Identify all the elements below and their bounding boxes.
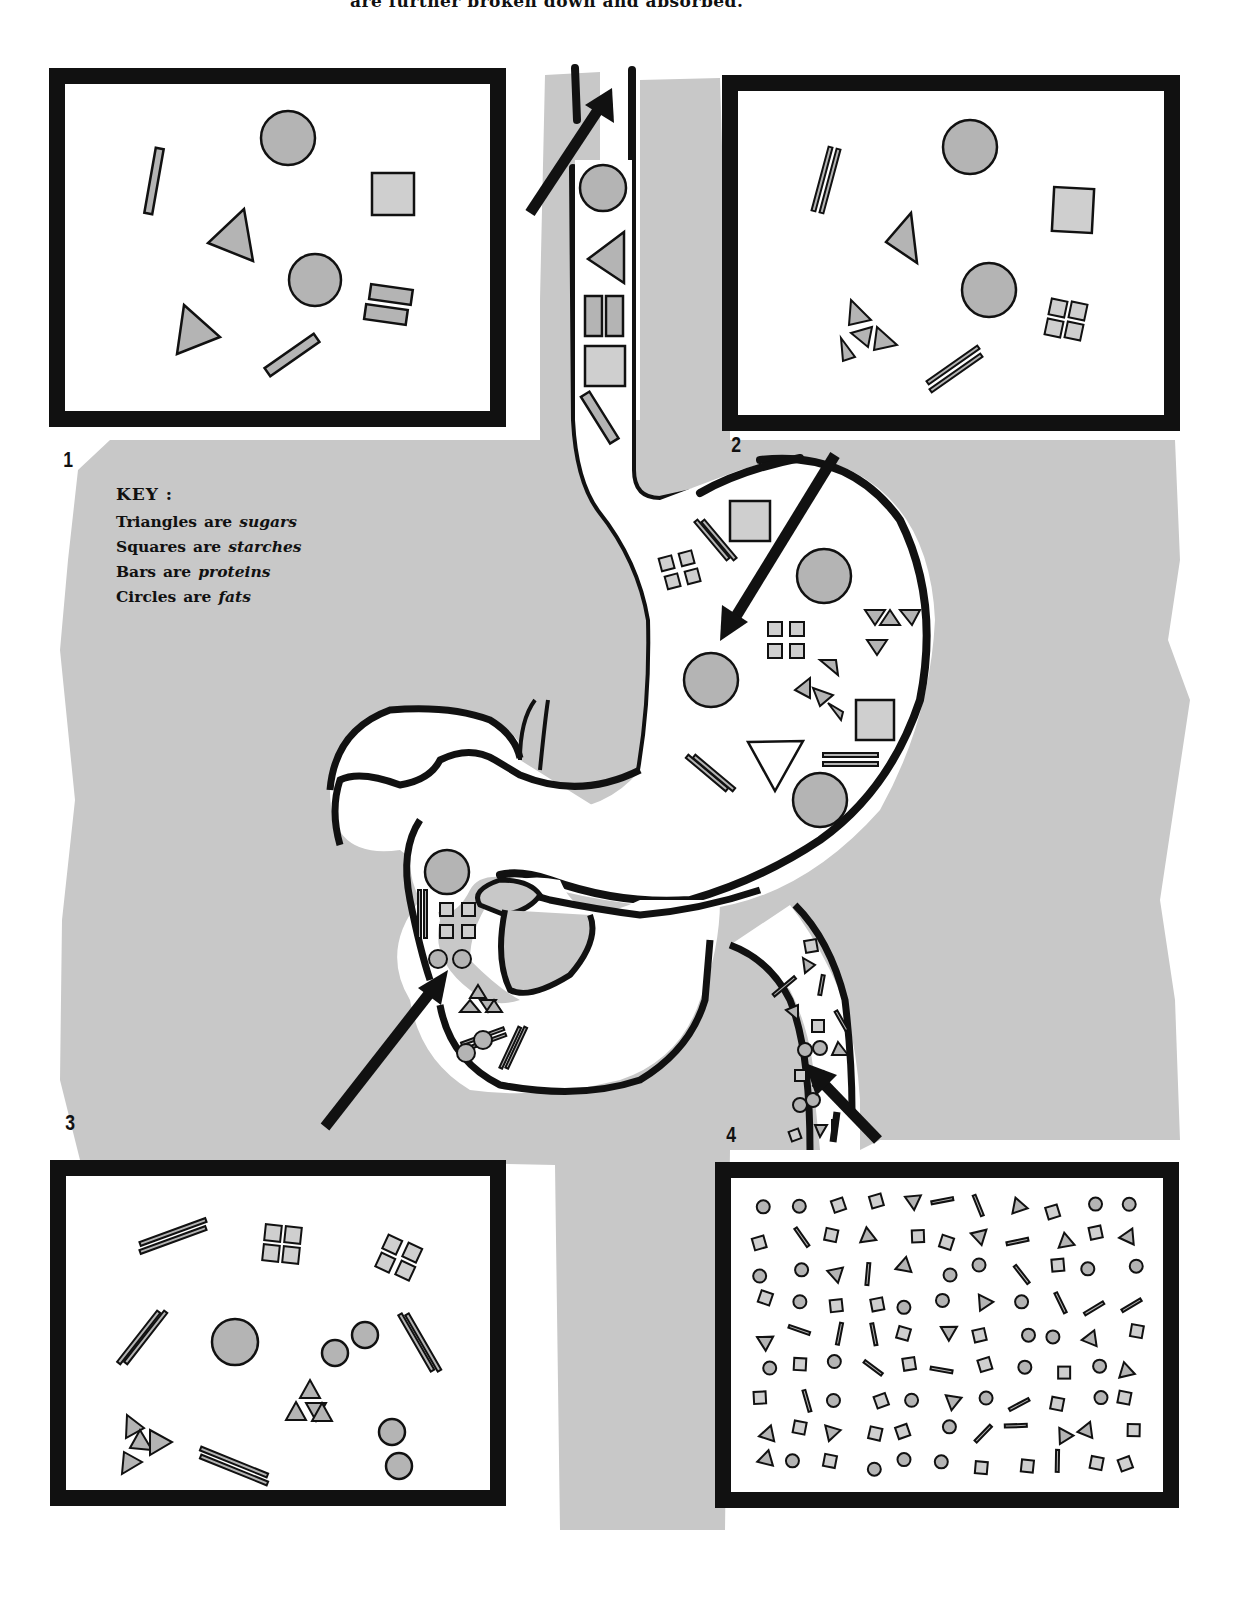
key-row-circles: Circlesarefats xyxy=(116,584,302,609)
digestion-diagram: are further broken down and absorbed. 1 … xyxy=(0,0,1252,1600)
step-number-1: 1 xyxy=(63,447,73,473)
diagram-canvas xyxy=(0,0,1252,1600)
key-nutrient: sugars xyxy=(239,512,297,531)
key-nutrient: fats xyxy=(218,587,251,606)
key-row-bars: Barsareproteins xyxy=(116,559,302,584)
key-nutrient: proteins xyxy=(198,562,270,581)
key-row-squares: Squaresarestarches xyxy=(116,534,302,559)
step-number-3: 3 xyxy=(65,1110,75,1136)
step-number-4: 4 xyxy=(726,1122,736,1148)
key-shape-label: Squares xyxy=(116,537,186,556)
caption-text: are further broken down and absorbed. xyxy=(350,0,743,11)
key-verb: are xyxy=(163,562,191,581)
panel-3-frame xyxy=(58,1168,498,1498)
key-shape-label: Circles xyxy=(116,587,176,606)
key-nutrient: starches xyxy=(228,537,301,556)
key-shape-label: Bars xyxy=(116,562,156,581)
key-verb: are xyxy=(204,512,232,531)
key-shape-label: Triangles xyxy=(116,512,197,531)
key-verb: are xyxy=(183,587,211,606)
key-title: KEY : xyxy=(116,482,302,507)
step-number-2: 2 xyxy=(731,432,741,458)
key-verb: are xyxy=(193,537,221,556)
legend-key: KEY : Trianglesaresugars Squaresarestarc… xyxy=(116,482,302,609)
key-row-triangles: Trianglesaresugars xyxy=(116,509,302,534)
